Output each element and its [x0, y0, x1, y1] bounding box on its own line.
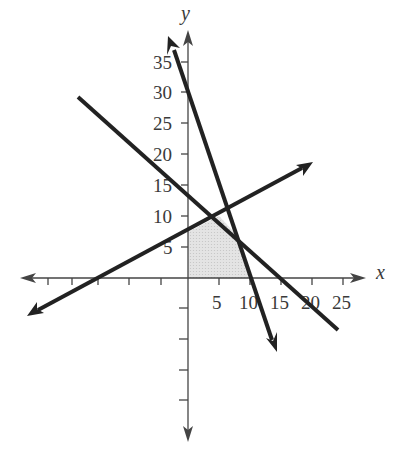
y-tick-25: 25	[153, 113, 172, 134]
y-tick-labels: 5 10 15 20 25 30 35	[153, 52, 173, 258]
y-tick-35: 35	[153, 52, 172, 73]
y-tick-20: 20	[153, 144, 172, 165]
feasible-region-graph: 5 10 15 20 25 5 10 15 20 25 30 35 y x	[0, 0, 393, 450]
y-tick-30: 30	[153, 82, 172, 103]
x-tick-5: 5	[212, 292, 222, 313]
y-axis-label: y	[179, 2, 190, 25]
x-tick-15: 15	[270, 292, 289, 313]
x-tick-labels: 5 10 15 20 25	[212, 292, 351, 313]
y-tick-10: 10	[153, 206, 172, 227]
x-tick-25: 25	[332, 292, 351, 313]
x-axis-label: x	[375, 261, 385, 283]
line-x-plus-y-equals-15	[78, 97, 338, 330]
